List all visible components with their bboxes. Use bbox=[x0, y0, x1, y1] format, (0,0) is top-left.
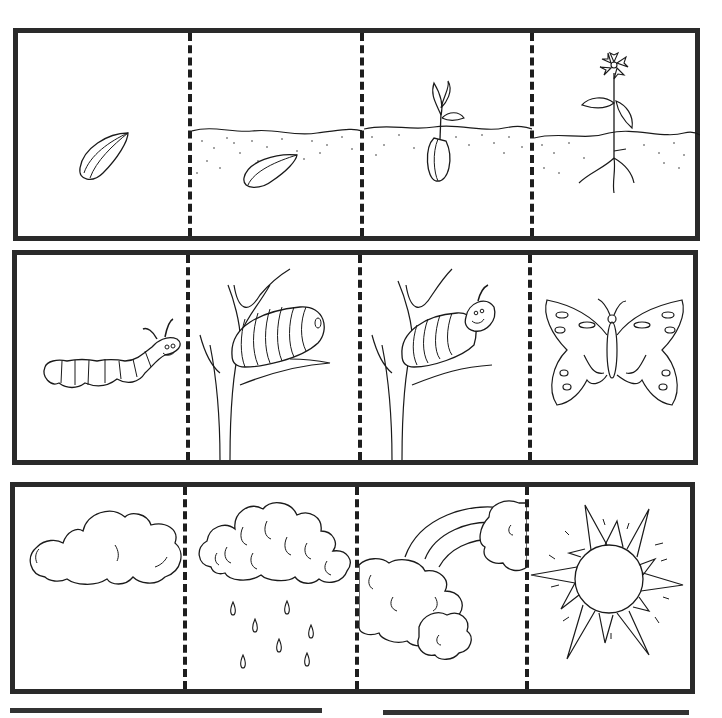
panel-cocoon bbox=[190, 255, 360, 460]
cocoon-icon bbox=[190, 255, 360, 460]
panel-cloud bbox=[15, 487, 185, 689]
panel-seed-in-soil bbox=[192, 33, 362, 236]
butterfly-icon bbox=[532, 255, 698, 460]
sprout-icon bbox=[364, 33, 532, 236]
panel-sprouting-seed bbox=[364, 33, 532, 236]
panel-flowering-plant bbox=[534, 33, 700, 236]
sun-icon bbox=[529, 487, 693, 689]
cloud-icon bbox=[15, 487, 185, 689]
answer-line-right[interactable] bbox=[383, 710, 689, 715]
panel-butterfly bbox=[532, 255, 698, 460]
panel-caterpillar bbox=[17, 255, 187, 460]
rain-cloud-icon bbox=[187, 487, 357, 689]
seed-icon bbox=[18, 33, 190, 236]
panel-seed bbox=[18, 33, 190, 236]
panel-sun bbox=[529, 487, 693, 689]
emerging-caterpillar-icon bbox=[362, 255, 530, 460]
seed-in-soil-icon bbox=[192, 33, 362, 236]
caterpillar-icon bbox=[17, 255, 187, 460]
row-butterfly-life-cycle bbox=[12, 250, 698, 465]
row-weather-sequence bbox=[10, 482, 695, 694]
panel-rainbow bbox=[359, 487, 527, 689]
rainbow-icon bbox=[359, 487, 527, 689]
row-plant-life-cycle bbox=[13, 28, 700, 241]
answer-line-left[interactable] bbox=[10, 708, 322, 713]
flower-icon bbox=[534, 33, 700, 236]
panel-rain-cloud bbox=[187, 487, 357, 689]
panel-emerging-caterpillar bbox=[362, 255, 530, 460]
